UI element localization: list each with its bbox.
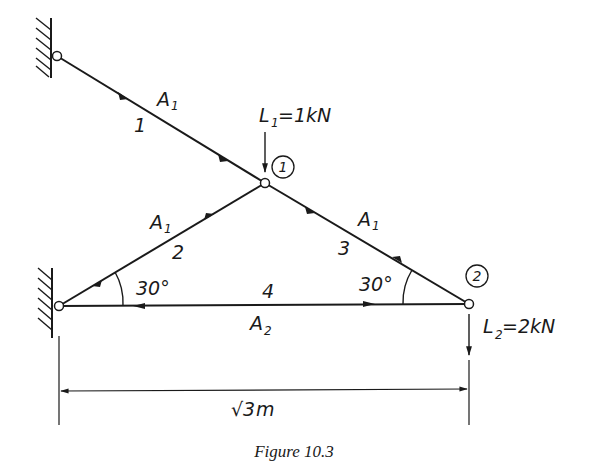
svg-text:=2kN: =2kN	[502, 315, 555, 337]
member-1-number: 1	[134, 114, 146, 136]
member-4	[59, 301, 469, 309]
load-label-l1: L 1 =1kN	[259, 104, 331, 130]
pin-node-2	[465, 300, 474, 309]
arrow-icon	[133, 303, 145, 309]
pin-top-support	[53, 52, 62, 61]
angle-arc-right	[403, 270, 412, 304]
pin-node-1	[261, 179, 270, 188]
angle-arc-left	[115, 272, 123, 306]
svg-text:√3: √3	[231, 398, 255, 420]
member-4-area-label: A 2	[248, 312, 272, 338]
svg-text:m: m	[256, 398, 275, 420]
figure-caption: Figure 10.3	[253, 442, 334, 461]
svg-text:1: 1	[164, 222, 172, 236]
pin-bottom-support	[55, 302, 64, 311]
svg-text:2: 2	[264, 324, 272, 338]
svg-text:1: 1	[171, 99, 179, 113]
angle-label-left: 30°	[136, 277, 170, 299]
member-2-area-label: A 1	[148, 211, 172, 236]
svg-text:=1kN: =1kN	[278, 104, 331, 126]
member-3-number: 3	[338, 237, 350, 259]
arrow-icon	[305, 207, 315, 214]
member-1-area-label: A 1	[155, 88, 179, 113]
arrow-icon	[363, 301, 375, 307]
svg-text:A: A	[155, 88, 170, 110]
angle-label-right: 30°	[359, 273, 393, 295]
arrow-icon	[118, 92, 128, 100]
svg-text:1: 1	[372, 219, 380, 233]
top-wall-support-icon	[36, 18, 51, 78]
arrow-icon	[204, 213, 214, 220]
truss-diagram: 1 2 L 1 =1kN L 2 =2kN A 1 1 A 1 2 A 1 3 …	[0, 0, 589, 472]
bottom-wall-support-icon	[38, 268, 52, 338]
member-4-number: 4	[262, 280, 274, 302]
dimension-label: √3 m	[231, 398, 275, 420]
node-2-label: 2	[473, 268, 482, 284]
svg-text:A: A	[148, 211, 163, 233]
svg-text:L: L	[483, 315, 494, 337]
svg-text:L: L	[259, 104, 270, 126]
svg-text:A: A	[356, 208, 371, 230]
svg-text:A: A	[248, 312, 263, 334]
arrow-icon	[92, 280, 102, 287]
member-3-area-label: A 1	[356, 208, 380, 233]
node-1-label: 1	[279, 159, 288, 175]
load-label-l2: L 2 =2kN	[483, 315, 555, 342]
arrow-icon	[218, 154, 228, 162]
member-1	[57, 56, 265, 183]
member-2-number: 2	[172, 241, 184, 263]
